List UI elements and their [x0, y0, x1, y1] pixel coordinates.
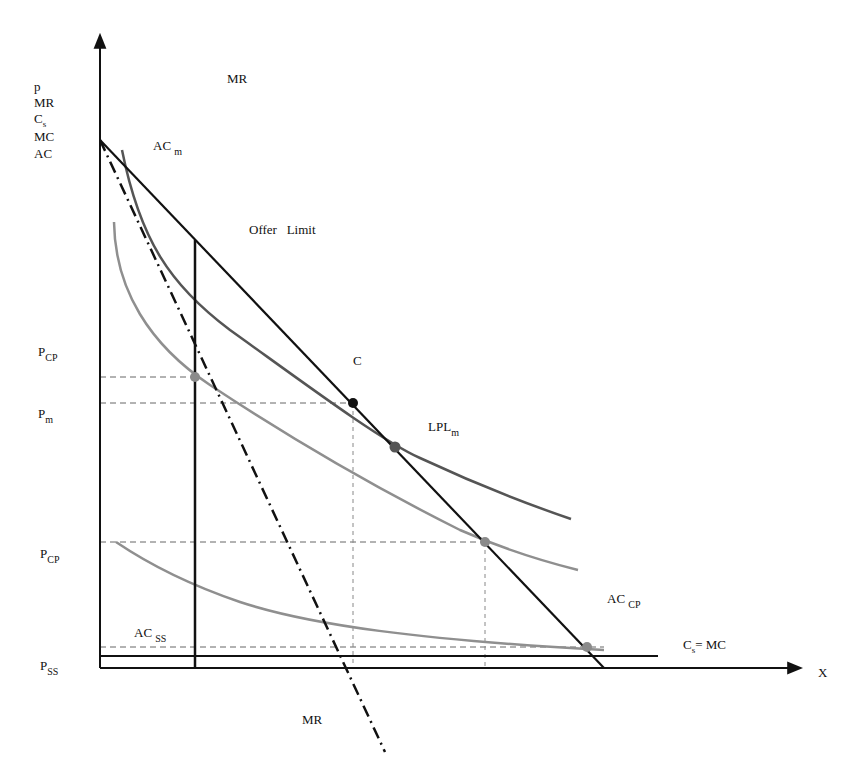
- point-ac-ss: [582, 642, 592, 652]
- y-label-mc: MC: [34, 130, 54, 143]
- cs-mc-rest: = MC: [695, 637, 726, 652]
- mr-bottom-label: MR: [302, 713, 322, 726]
- ac-cp-main: AC: [607, 591, 625, 606]
- ac-m-main: AC: [153, 138, 171, 153]
- p-cp-upper-sub: CP: [45, 352, 57, 363]
- ac-m-curve: [122, 150, 571, 519]
- y-label-cs: Cs: [34, 112, 46, 125]
- y-label-cs-sub: s: [43, 119, 47, 129]
- ac-ss-main: AC: [134, 625, 152, 640]
- economics-diagram: [0, 0, 865, 764]
- lpl-m-label: LPLm: [428, 420, 459, 433]
- x-axis-label: X: [818, 666, 827, 679]
- p-m-sub: m: [45, 414, 53, 425]
- ac-m-label: AC m: [153, 139, 182, 152]
- ac-cp-label: AC CP: [607, 592, 641, 605]
- p-ss-label: PSS: [40, 659, 58, 672]
- lpl-m-sub: m: [451, 427, 459, 438]
- ac-ss-sub: SS: [155, 633, 166, 644]
- point-offer-limit: [190, 372, 200, 382]
- point-lpl-m: [390, 442, 401, 453]
- ac-cp-curve: [114, 222, 578, 570]
- cs-mc-sub: s: [692, 645, 696, 655]
- c-point-label: C: [353, 354, 362, 367]
- cs-mc-main: C: [683, 637, 692, 652]
- mr-dash-dot-line: [100, 140, 385, 752]
- p-cp-lower-sub: CP: [47, 554, 59, 565]
- p-cp-upper-label: PCP: [38, 345, 57, 358]
- offer-limit-label: Offer Limit: [249, 223, 316, 236]
- ac-ss-label: AC SS: [134, 626, 166, 639]
- p-cp-lower-label: PCP: [40, 547, 59, 560]
- y-label-ac: AC: [34, 147, 52, 160]
- y-label-cs-main: C: [34, 111, 43, 126]
- point-c: [348, 398, 358, 408]
- y-label-p: p: [34, 80, 41, 93]
- dashed-guides: [100, 377, 604, 668]
- p-m-label: Pm: [38, 407, 53, 420]
- cs-mc-label: Cs= MC: [683, 638, 726, 651]
- lpl-m-main: LPL: [428, 419, 451, 434]
- ac-cp-sub: CP: [628, 599, 640, 610]
- y-label-mr: MR: [34, 96, 54, 109]
- ac-m-sub: m: [174, 146, 182, 157]
- mr-top-label: MR: [227, 72, 247, 85]
- ac-ss-curve: [116, 542, 604, 650]
- point-p-cp: [480, 537, 490, 547]
- p-ss-sub: SS: [47, 666, 58, 677]
